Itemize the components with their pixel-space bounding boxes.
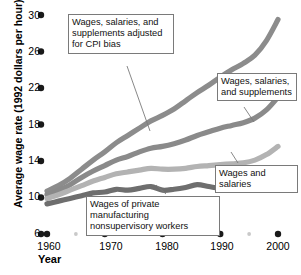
x-tick-label-2000: 2000 [258,240,298,252]
series-callout-manufacturing-nonsupervisory: Wages of private manufacturing nonsuperv… [86,196,220,236]
y-tick-label-6: 6 [18,227,40,239]
y-tick-label-30: 30 [18,9,40,21]
x-minor-tick-dot-0 [74,232,78,236]
x-axis-title: Year [38,253,61,265]
x-tick-label-1990: 1990 [202,240,242,252]
x-tick-dot-4 [275,231,281,237]
y-tick-label-18: 18 [18,118,40,130]
y-tick-label-26: 26 [18,45,40,57]
series-callout-cpi-adjusted: Wages, salaries, and supplements adjuste… [68,14,174,54]
y-tick-label-14: 14 [18,154,40,166]
y-tick-label-10: 10 [18,190,40,202]
y-tick-label-22: 22 [18,81,40,93]
wage-rate-line-chart: Average wage rate (1992 dollars per hour… [0,0,301,275]
x-tick-dot-0 [44,231,50,237]
series-callout-wages-and-salaries: Wages and salaries [215,165,298,193]
x-minor-tick-dot-3 [247,232,251,236]
series-callout-wages-salaries-supplements: Wages, salaries, and supplements [217,73,297,101]
callout-leader-line-0 [127,66,150,131]
x-tick-label-1960: 1960 [29,240,69,252]
x-tick-label-1970: 1970 [91,240,131,252]
x-tick-label-1980: 1980 [147,240,187,252]
